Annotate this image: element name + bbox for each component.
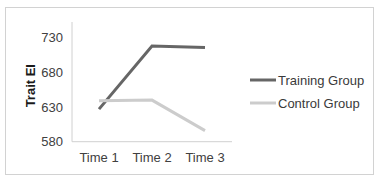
y-tick-label: 630 [41, 100, 63, 115]
line-chart: 580630680730Trait EITime 1Time 2Time 3 T… [0, 0, 379, 181]
axes: 580630680730Trait EITime 1Time 2Time 3 [23, 22, 232, 165]
legend-label: Control Group [278, 96, 360, 111]
legend-label: Training Group [278, 73, 364, 88]
series-lines [99, 46, 205, 131]
x-tick-label: Time 2 [132, 150, 171, 165]
y-tick-label: 680 [41, 65, 63, 80]
x-tick-label: Time 3 [185, 150, 224, 165]
legend: Training GroupControl Group [250, 73, 364, 111]
series-line-control-group [99, 100, 205, 131]
y-tick-label: 580 [41, 134, 63, 149]
y-tick-label: 730 [41, 30, 63, 45]
y-axis-title: Trait EI [23, 64, 38, 107]
x-tick-label: Time 1 [79, 150, 118, 165]
